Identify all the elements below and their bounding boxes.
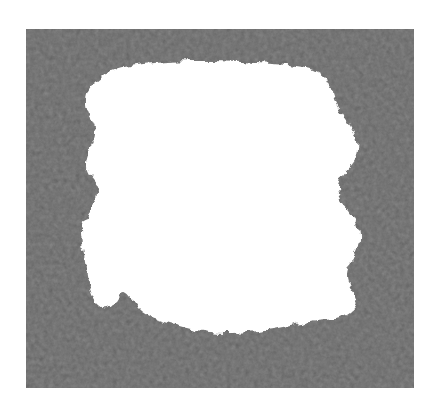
noise-texture-svg (26, 29, 414, 388)
figure-canvas: Binary segmentation mask over noisy gray… (0, 0, 439, 413)
noise-grain-rect (26, 29, 414, 388)
noise-texture-region (26, 29, 414, 388)
